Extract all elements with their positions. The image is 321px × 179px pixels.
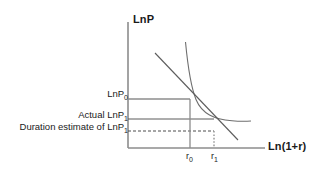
- duration-tangent-line: [155, 53, 238, 140]
- x-tick-label-r0: r0: [186, 152, 193, 161]
- y-label-lnp0-subscript: 0: [124, 94, 128, 101]
- y-label-actual-lnp1-text: Actual LnP: [78, 109, 124, 120]
- plot-canvas: [0, 0, 321, 179]
- x-tick-label-r1: r1: [211, 152, 218, 161]
- x-tick-r0-subscript: 0: [189, 156, 193, 163]
- y-label-actual-lnp1: Actual LnP1: [78, 110, 128, 120]
- y-label-duration-lnp1-subscript: 1: [124, 127, 128, 134]
- x-tick-r1-subscript: 1: [214, 156, 218, 163]
- y-label-duration-lnp1: Duration estimate of LnP1: [20, 122, 128, 132]
- convexity-duration-diagram: LnP Ln(1+r) LnP0 Actual LnP1 Duration es…: [0, 0, 321, 179]
- y-label-lnp0-text: LnP: [107, 88, 124, 99]
- y-label-duration-lnp1-text: Duration estimate of LnP: [20, 121, 125, 132]
- x-axis-title: Ln(1+r): [268, 141, 306, 152]
- y-label-actual-lnp1-subscript: 1: [124, 115, 128, 122]
- price-yield-curve: [186, 42, 252, 121]
- y-axis-title: LnP: [133, 14, 154, 25]
- y-label-lnp0: LnP0: [107, 89, 128, 99]
